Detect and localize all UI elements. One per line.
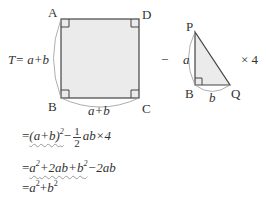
side-bottom-label: a+b: [88, 104, 110, 117]
vertex-b-label: B: [48, 100, 57, 113]
vertex-a-label: A: [48, 6, 57, 19]
times-four: × 4: [241, 53, 258, 66]
vertex-q-label: Q: [231, 87, 240, 100]
vertex-p-label: P: [186, 20, 193, 33]
vertex-tri-b-label: B: [185, 87, 194, 100]
fraction-one-half: 12: [73, 126, 81, 149]
derivation-line-2: =a2+2ab+b2−2ab: [22, 160, 116, 174]
square-abcd: [61, 19, 139, 98]
brace-left: [54, 19, 62, 98]
vertex-d-label: D: [142, 8, 151, 21]
vertex-c-label: C: [142, 102, 151, 115]
ab-times-4: ab×4: [83, 128, 111, 143]
triangle-pbq: [195, 32, 230, 85]
side-pb-label: a: [183, 53, 190, 66]
term-a-plus-b: (a+b)2: [29, 128, 63, 143]
derivation-line-3: =a2+b2: [22, 180, 58, 194]
side-left-label: T= a+b: [8, 53, 49, 66]
minus-2ab: −2ab: [87, 160, 115, 175]
derivation-line-1: =(a+b)2−12ab×4: [22, 126, 111, 149]
minus-sign: −: [64, 128, 71, 143]
expanded-square: a2+2ab+b2: [29, 160, 87, 175]
minus-operator: −: [161, 53, 168, 66]
side-bq-label: b: [209, 91, 216, 104]
